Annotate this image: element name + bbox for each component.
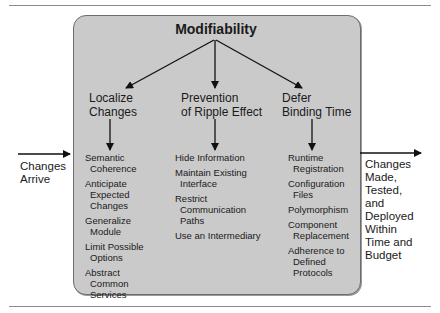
heading-line: Binding Time [282,105,351,119]
heading-localize-changes: Localize Changes [89,91,137,119]
heading-line: Changes [89,105,137,119]
tactic-line: Runtime [288,152,323,163]
heading-line: of Ripple Effect [181,105,262,119]
tactic-restrict-communication-paths: Restrict Communication Paths [175,193,261,226]
label-line: Time and [365,236,414,249]
tactic-line: Hide Information [175,152,245,163]
label-line: Tested, [365,184,414,197]
label-line: Changes [365,158,414,171]
heading-prevention-ripple: Prevention of Ripple Effect [181,91,262,119]
label-line: Arrive [20,173,66,186]
tactic-line: Files [288,189,349,200]
tactic-line: Defined [288,256,349,267]
tactic-line: Maintain Existing [175,167,247,178]
tactic-adherence-defined-protocols: Adherence to Defined Protocols [288,245,349,278]
label-line: and [365,197,414,210]
tactic-use-an-intermediary: Use an Intermediary [175,230,261,241]
tactic-line: Communication [175,204,261,215]
label-line: Within [365,223,414,236]
tactic-line: Coherence [85,163,144,174]
tactic-line: Generalize [85,215,131,226]
tactic-configuration-files: Configuration Files [288,178,349,200]
tactic-polymorphism: Polymorphism [288,204,349,215]
tactic-line: Services [85,289,144,300]
label-line: Changes [20,160,66,173]
heading-line: Localize [89,91,137,105]
heading-defer-binding: Defer Binding Time [282,91,351,119]
tactic-runtime-registration: Runtime Registration [288,152,349,174]
tactic-component-replacement: Component Replacement [288,219,349,241]
tactic-line: Paths [175,215,261,226]
tactic-line: Polymorphism [288,204,348,215]
changes-deployed-label: Changes Made, Tested, and Deployed Withi… [365,158,414,262]
tactic-hide-information: Hide Information [175,152,261,163]
tactic-line: Limit Possible [85,241,144,252]
arrow-to-defer [216,40,302,88]
tactic-line: Module [85,226,144,237]
tactics-prevention: Hide Information Maintain Existing Inter… [175,152,261,245]
tactic-line: Adherence to [288,245,345,256]
tactics-localize: Semantic Coherence Anticipate Expected C… [85,152,144,304]
diagram-title: Modifiability [73,21,359,37]
tactic-anticipate-expected-changes: Anticipate Expected Changes [85,178,144,211]
tactic-line: Use an Intermediary [175,230,261,241]
tactic-abstract-common-services: Abstract Common Services [85,267,144,300]
tactic-line: Restrict [175,193,207,204]
tactic-limit-possible-options: Limit Possible Options [85,241,144,263]
tactic-maintain-existing-interface: Maintain Existing Interface [175,167,261,189]
tactic-line: Changes [85,200,144,211]
tactic-line: Interface [175,178,261,189]
tactic-line: Protocols [288,267,349,278]
tactic-semantic-coherence: Semantic Coherence [85,152,144,174]
tactic-line: Options [85,252,144,263]
changes-arrive-label: Changes Arrive [20,160,66,186]
tactic-line: Component [288,219,337,230]
tactic-generalize-module: Generalize Module [85,215,144,237]
tactic-line: Common [85,278,144,289]
tactic-line: Configuration [288,178,345,189]
label-line: Deployed [365,210,414,223]
tactic-line: Anticipate [85,178,127,189]
tactic-line: Abstract [85,267,120,278]
tactic-line: Registration [288,163,349,174]
arrow-to-localize [126,40,214,88]
heading-line: Prevention [181,91,262,105]
tactics-defer: Runtime Registration Configuration Files… [288,152,349,282]
tactic-line: Replacement [288,230,349,241]
tactic-line: Expected [85,189,144,200]
heading-line: Defer [282,91,351,105]
tactic-line: Semantic [85,152,125,163]
label-line: Made, [365,171,414,184]
label-line: Budget [365,249,414,262]
